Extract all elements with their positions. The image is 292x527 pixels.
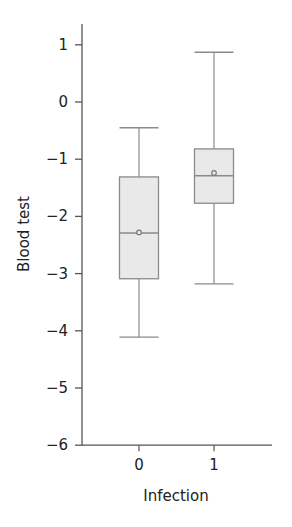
x-tick-label: 0 [134, 456, 144, 474]
y-tick-label: 1 [58, 36, 68, 54]
boxes-group [120, 52, 234, 337]
mean-marker [212, 171, 217, 176]
x-axis-title: Infection [143, 487, 208, 505]
box-plot-chart: 10−1−2−3−4−5−6 01 Infection Blood test [0, 0, 292, 527]
y-axis-title: Blood test [15, 196, 33, 272]
y-tick-label: 0 [58, 93, 68, 111]
y-tick-label: −6 [46, 436, 68, 454]
y-tick-label: −2 [46, 207, 68, 225]
iqr-box [120, 177, 159, 279]
y-tick-label: −3 [46, 265, 68, 283]
y-axis: 10−1−2−3−4−5−6 [46, 24, 82, 454]
y-tick-label: −1 [46, 150, 68, 168]
x-axis: 01 [82, 445, 272, 474]
box-0 [120, 128, 159, 337]
box-1 [195, 52, 234, 284]
x-tick-label: 1 [209, 456, 219, 474]
mean-marker [137, 230, 142, 235]
y-tick-label: −5 [46, 379, 68, 397]
y-tick-label: −4 [46, 322, 68, 340]
